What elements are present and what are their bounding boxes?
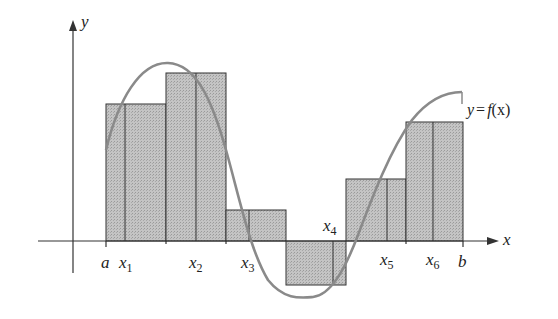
label-b: b: [458, 252, 467, 271]
label-x4: x4: [322, 216, 337, 238]
x-axis-arrow-icon: [487, 237, 499, 245]
label-x6: x6: [425, 250, 440, 272]
label-x3: x3: [240, 253, 255, 275]
riemann-sum-figure: y x y=f(x) a b x1 x2 x3 x4 x5 x6: [0, 0, 558, 319]
rectangle-1: [106, 104, 166, 241]
x-axis-label: x: [502, 230, 511, 249]
label-a: a: [101, 253, 110, 272]
rectangle-6: [406, 122, 463, 241]
y-axis-arrow-icon: [69, 20, 77, 31]
label-x5: x5: [379, 250, 394, 272]
curve-label: y=f(x): [465, 101, 510, 119]
label-x2: x2: [188, 253, 203, 275]
riemann-rectangles: [106, 73, 463, 285]
y-axis-label: y: [79, 12, 89, 31]
rectangle-3: [226, 210, 286, 241]
label-x1: x1: [118, 253, 133, 275]
